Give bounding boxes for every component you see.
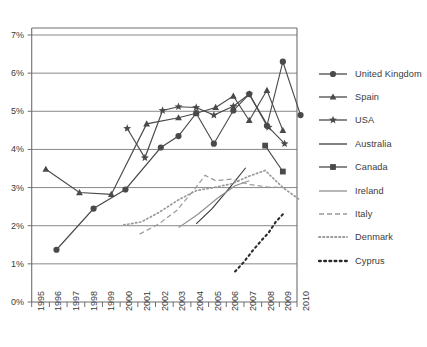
series-marker-united-kingdom xyxy=(297,112,303,118)
y-axis-tick-label: 2% xyxy=(0,221,24,231)
legend-key-line-star-icon xyxy=(318,113,348,127)
legend-key-line-bold-dotted-icon xyxy=(318,254,348,268)
x-axis-tick-label: 2000 xyxy=(124,291,134,311)
y-axis-tick-label: 0% xyxy=(0,297,24,307)
legend-item-spain[interactable]: Spain xyxy=(318,85,424,108)
series-marker-canada xyxy=(262,143,268,149)
x-axis-tick-label: 2009 xyxy=(283,291,293,311)
legend-key-line-solid-light-icon xyxy=(318,184,348,198)
series-marker-united-kingdom xyxy=(211,141,217,147)
legend-item-ireland[interactable]: Ireland xyxy=(318,179,424,202)
x-axis-tick-label: 2006 xyxy=(230,291,240,311)
y-axis-tick-label: 3% xyxy=(0,183,24,193)
legend-key-line-triangle-icon xyxy=(318,90,348,104)
series-marker-spain xyxy=(279,127,286,133)
x-axis-tick-label: 2005 xyxy=(213,291,223,311)
y-axis-tick-label: 7% xyxy=(0,30,24,40)
legend-label: Australia xyxy=(355,139,392,149)
x-axis-tick-label: 1997 xyxy=(71,291,81,311)
x-axis-tick-label: 1995 xyxy=(36,291,46,311)
chart-page: United KingdomSpainUSAAustraliaCanadaIre… xyxy=(0,0,427,347)
legend-label: Italy xyxy=(355,209,372,219)
legend-key-line-circle-icon xyxy=(318,67,348,81)
legend-label: United Kingdom xyxy=(355,69,422,79)
legend-key-line-dotted-icon xyxy=(318,230,348,244)
series-marker-united-kingdom xyxy=(53,247,59,253)
legend-item-united-kingdom[interactable]: United Kingdom xyxy=(318,62,424,85)
legend-key-line-square-icon xyxy=(318,160,348,174)
x-axis-tick-label: 2004 xyxy=(195,291,205,311)
legend-label: USA xyxy=(355,115,374,125)
legend-key-line-dashed-icon xyxy=(318,207,348,221)
series-marker-spain xyxy=(230,92,237,98)
series-marker-spain xyxy=(42,166,49,172)
legend-item-canada[interactable]: Canada xyxy=(318,156,424,179)
x-axis-tick-label: 2002 xyxy=(160,291,170,311)
legend-item-australia[interactable]: Australia xyxy=(318,132,424,155)
series-marker-united-kingdom xyxy=(158,144,164,150)
series-line-united-kingdom xyxy=(56,62,300,250)
chart-legend: United KingdomSpainUSAAustraliaCanadaIre… xyxy=(318,62,424,273)
y-axis-tick-label: 5% xyxy=(0,106,24,116)
legend-key-line-solid-dark-icon xyxy=(318,137,348,151)
y-axis-tick-label: 6% xyxy=(0,68,24,78)
legend-label: Canada xyxy=(355,162,388,172)
series-marker-spain xyxy=(76,189,83,195)
series-marker-spain xyxy=(264,87,271,93)
series-marker-usa xyxy=(159,106,167,114)
series-line-usa xyxy=(127,94,284,158)
x-axis-tick-label: 2008 xyxy=(266,291,276,311)
x-axis-tick-label: 2007 xyxy=(248,291,258,311)
legend-label: Cyprus xyxy=(355,256,385,266)
x-axis-tick-label: 1998 xyxy=(89,291,99,311)
legend-item-usa[interactable]: USA xyxy=(318,109,424,132)
series-marker-canada xyxy=(280,169,286,175)
legend-item-denmark[interactable]: Denmark xyxy=(318,226,424,249)
y-axis-tick-label: 4% xyxy=(0,144,24,154)
x-axis-tick-label: 2001 xyxy=(142,291,152,311)
series-marker-usa xyxy=(175,103,183,111)
legend-item-italy[interactable]: Italy xyxy=(318,202,424,225)
legend-item-cyprus[interactable]: Cyprus xyxy=(318,249,424,272)
x-axis-tick-label: 2003 xyxy=(177,291,187,311)
series-marker-spain xyxy=(212,104,219,110)
series-marker-usa xyxy=(123,124,131,132)
series-line-spain xyxy=(46,90,283,194)
x-axis-tick-label: 1999 xyxy=(106,291,116,311)
series-marker-united-kingdom xyxy=(91,205,97,211)
series-marker-united-kingdom xyxy=(280,59,286,65)
legend-label: Denmark xyxy=(355,232,393,242)
x-axis-tick-label: 1996 xyxy=(53,291,63,311)
legend-label: Spain xyxy=(355,92,379,102)
series-marker-united-kingdom xyxy=(175,133,181,139)
x-axis-tick-label: 2010 xyxy=(301,291,311,311)
series-marker-usa xyxy=(210,111,218,119)
series-line-cyprus xyxy=(235,214,283,271)
legend-label: Ireland xyxy=(355,186,384,196)
series-marker-united-kingdom xyxy=(122,186,128,192)
series-marker-united-kingdom xyxy=(230,107,236,113)
y-axis-tick-label: 1% xyxy=(0,259,24,269)
series-marker-usa xyxy=(141,154,149,162)
